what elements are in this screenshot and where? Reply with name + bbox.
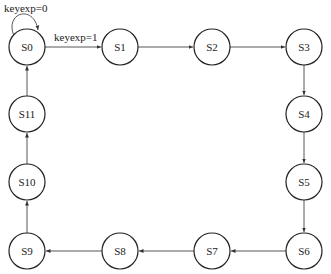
svg-text:S9: S9: [21, 245, 33, 257]
state-diagram: keyexp=0 keyexp=1 S0 S1 S2 S3 S4 S5 S6 S…: [0, 0, 331, 274]
svg-text:S7: S7: [206, 245, 218, 257]
state-s1: S1: [102, 29, 138, 65]
state-s4: S4: [286, 96, 322, 132]
svg-text:S11: S11: [19, 108, 36, 120]
label-keyexp-1: keyexp=1: [54, 31, 97, 43]
state-s7: S7: [194, 233, 230, 269]
svg-text:S1: S1: [114, 41, 126, 53]
state-s5: S5: [286, 164, 322, 200]
svg-text:S8: S8: [114, 245, 126, 257]
svg-text:S4: S4: [298, 108, 310, 120]
label-keyexp-0: keyexp=0: [4, 2, 48, 14]
state-s2: S2: [194, 29, 230, 65]
state-s11: S11: [9, 96, 45, 132]
svg-text:S0: S0: [21, 41, 33, 53]
svg-text:S6: S6: [298, 245, 310, 257]
svg-text:S10: S10: [18, 176, 36, 188]
state-s10: S10: [9, 164, 45, 200]
svg-text:S2: S2: [206, 41, 218, 53]
svg-text:S5: S5: [298, 176, 310, 188]
state-s3: S3: [286, 29, 322, 65]
state-s0: S0: [9, 29, 45, 65]
svg-text:S3: S3: [298, 41, 310, 53]
state-s8: S8: [102, 233, 138, 269]
state-s6: S6: [286, 233, 322, 269]
state-s9: S9: [9, 233, 45, 269]
